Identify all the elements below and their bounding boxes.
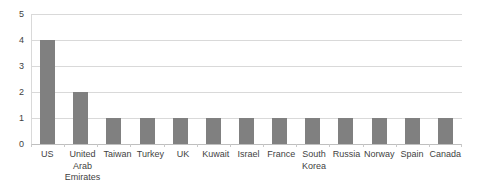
x-axis-tick-label: Taiwan (101, 149, 134, 161)
bar-chart: 5 4 3 2 1 0 USUnited Arab EmiratesTaiwan… (0, 0, 478, 188)
x-axis-tick-label: Norway (363, 149, 396, 161)
bar (372, 118, 387, 144)
x-axis-tick-label: Turkey (134, 149, 167, 161)
bar-slot (296, 14, 329, 144)
bar (239, 118, 254, 144)
bar (305, 118, 320, 144)
bar (206, 118, 221, 144)
x-axis-tick-label: Canada (428, 149, 462, 161)
x-axis-tick (164, 144, 197, 148)
bar (438, 118, 453, 144)
bar (272, 118, 287, 144)
bar (338, 118, 353, 144)
x-axis-tick (130, 144, 163, 148)
x-axis-tick-label: United Arab Emirates (64, 149, 102, 184)
bar (140, 118, 155, 144)
bar-slot (31, 14, 64, 144)
x-axis-tick (230, 144, 263, 148)
x-axis-tick-labels: USUnited Arab EmiratesTaiwanTurkeyUKKuwa… (31, 149, 462, 184)
bar-slot (363, 14, 396, 144)
bar-slot (230, 14, 263, 144)
bar (405, 118, 420, 144)
bar (40, 40, 55, 144)
y-axis-tick-label: 4 (19, 36, 24, 45)
x-axis-tick (329, 144, 362, 148)
x-axis-tick (296, 144, 329, 148)
x-axis-tick-label: France (265, 149, 298, 161)
x-axis-ticks (31, 144, 462, 148)
x-axis-tick-label: Kuwait (199, 149, 232, 161)
bar (73, 92, 88, 144)
x-axis-tick-label: Spain (396, 149, 429, 161)
x-axis-tick-label: Russia (330, 149, 363, 161)
bar (173, 118, 188, 144)
x-axis-tick-label: South Korea (298, 149, 331, 172)
x-axis-tick (197, 144, 230, 148)
y-axis-tick-label: 3 (19, 62, 24, 71)
y-axis-tick-labels: 5 4 3 2 1 0 (0, 0, 31, 188)
x-axis-tick (429, 144, 462, 148)
x-axis-tick (31, 144, 64, 148)
x-axis-tick (263, 144, 296, 148)
x-axis-tick (363, 144, 396, 148)
bar-slot (97, 14, 130, 144)
bar-slot (329, 14, 362, 144)
bar-slot (64, 14, 97, 144)
bar-slot (164, 14, 197, 144)
y-axis-tick-label: 5 (19, 10, 24, 19)
bar-slot (396, 14, 429, 144)
x-axis-tick (64, 144, 97, 148)
y-axis-tick-label: 2 (19, 88, 24, 97)
y-axis-tick-label: 1 (19, 114, 24, 123)
x-axis-tick (97, 144, 130, 148)
y-axis-tick-label: 0 (19, 140, 24, 149)
x-axis-tick-label: UK (167, 149, 200, 161)
bar (106, 118, 121, 144)
x-axis-tick-label: Israel (232, 149, 265, 161)
bar-slot (429, 14, 462, 144)
bar-slot (197, 14, 230, 144)
bar-series (31, 14, 462, 144)
bar-slot (130, 14, 163, 144)
x-axis-tick-label: US (31, 149, 64, 161)
bar-slot (263, 14, 296, 144)
x-axis-tick (396, 144, 429, 148)
